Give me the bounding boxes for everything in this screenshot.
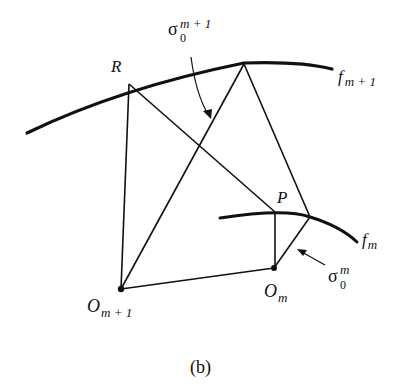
label-O-m: Om xyxy=(264,281,287,305)
label-f-m-plus-1: fm + 1 xyxy=(338,67,376,89)
label-R: R xyxy=(110,57,122,76)
label-sigma-outer-sup: m + 1 xyxy=(180,16,211,31)
line-Om-fm xyxy=(274,217,310,268)
label-sigma-inner-sub: 0 xyxy=(340,278,346,292)
construction-lines xyxy=(121,64,310,289)
line-Om1-R xyxy=(121,84,129,289)
label-P: P xyxy=(276,188,287,207)
label-sigma-outer-sub: 0 xyxy=(180,31,186,45)
point-O-m xyxy=(271,265,277,271)
line-Om1-apex xyxy=(121,64,244,289)
label-sigma-inner-sup: m xyxy=(340,262,349,277)
curve-f-m-plus-1 xyxy=(27,63,332,133)
label-f-m: fm xyxy=(362,230,377,252)
label-sigma-inner: σ xyxy=(328,266,338,286)
label-sigma-outer: σ xyxy=(168,19,178,39)
curve-f-m xyxy=(220,213,357,242)
label-O-m-plus-1: Om + 1 xyxy=(87,296,132,320)
arrowhead-inner-icon xyxy=(297,249,307,256)
figure-caption: (b) xyxy=(190,357,211,378)
diagram-canvas: R P fm + 1 fm Om + 1 Om σ 0 m + 1 σ 0 m … xyxy=(0,0,411,392)
arrow-sigma-outer xyxy=(191,57,209,116)
line-Om1-Om xyxy=(121,268,274,289)
arrowhead-outer-icon xyxy=(203,109,212,119)
point-O-m-plus-1 xyxy=(118,286,124,292)
